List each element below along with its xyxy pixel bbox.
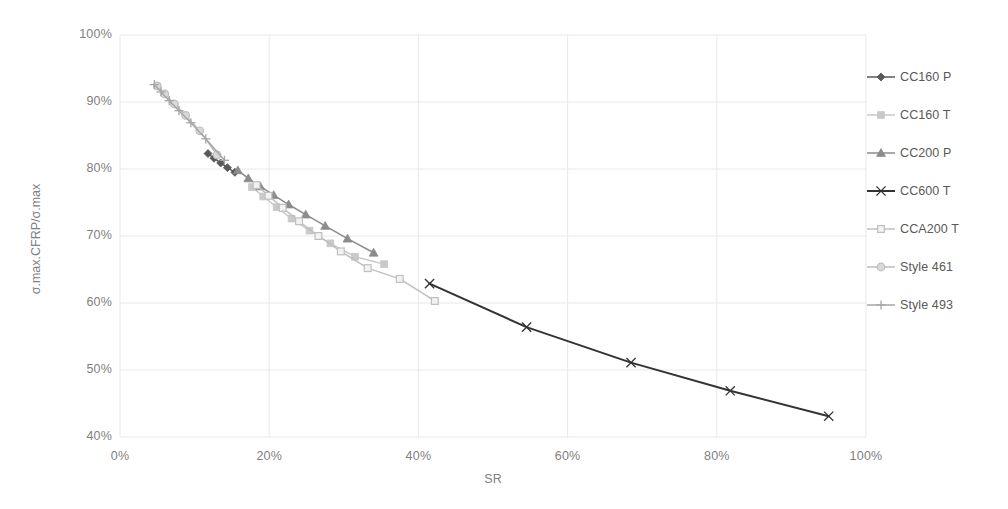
data-point bbox=[296, 218, 303, 225]
data-point bbox=[396, 275, 403, 282]
legend-marker-square-icon bbox=[866, 108, 896, 122]
legend-item-label: CC160 P bbox=[896, 70, 951, 84]
x-axis-tick-label: 40% bbox=[383, 449, 453, 463]
x-axis-tick-label: 80% bbox=[682, 449, 752, 463]
legend-marker-glyph bbox=[878, 112, 885, 119]
data-point bbox=[337, 248, 344, 255]
data-point bbox=[522, 323, 531, 332]
y-axis-tick-label: 80% bbox=[52, 161, 112, 175]
y-axis-title: σ.max.CFRP/σ.max bbox=[29, 154, 43, 324]
data-point bbox=[279, 204, 286, 211]
data-point bbox=[431, 298, 438, 305]
legend-item-cc160-t[interactable]: CC160 T bbox=[866, 96, 1008, 134]
legend-marker-plus-icon bbox=[866, 298, 896, 312]
data-point bbox=[321, 222, 330, 230]
legend-marker-square-open-icon bbox=[866, 222, 896, 236]
legend-item-label: CC200 P bbox=[896, 146, 951, 160]
legend-item-cc200-p[interactable]: CC200 P bbox=[866, 134, 1008, 172]
x-axis-tick-label: 20% bbox=[234, 449, 304, 463]
legend-item-label: Style 461 bbox=[896, 260, 953, 274]
legend-marker-triangle-icon bbox=[866, 146, 896, 160]
y-axis-tick-label: 100% bbox=[52, 27, 112, 41]
series-cc600-t bbox=[425, 279, 833, 421]
data-point bbox=[425, 279, 434, 288]
legend-marker-glyph bbox=[877, 263, 885, 271]
y-axis-tick-label: 60% bbox=[52, 295, 112, 309]
legend-marker-diamond-icon bbox=[866, 70, 896, 84]
y-axis-tick-label: 50% bbox=[52, 362, 112, 376]
y-axis-tick-label: 40% bbox=[52, 429, 112, 443]
legend-item-cc160-p[interactable]: CC160 P bbox=[866, 58, 1008, 96]
data-point bbox=[364, 265, 371, 272]
chart-container: 40%50%60%70%80%90%100%0%20%40%60%80%100%… bbox=[0, 0, 1008, 509]
legend-marker-glyph bbox=[878, 226, 885, 233]
legend-item-label: CC600 T bbox=[896, 184, 951, 198]
legend-item-style-461[interactable]: Style 461 bbox=[866, 248, 1008, 286]
x-axis-title: SR bbox=[458, 472, 528, 486]
series-cc160-p bbox=[204, 150, 239, 177]
y-axis-tick-label: 90% bbox=[52, 94, 112, 108]
data-point bbox=[369, 248, 378, 256]
series-cc200-p bbox=[233, 166, 378, 256]
data-point bbox=[301, 210, 310, 218]
x-axis-tick-label: 0% bbox=[85, 449, 155, 463]
series-style-493 bbox=[150, 80, 229, 165]
legend-item-cc600-t[interactable]: CC600 T bbox=[866, 172, 1008, 210]
y-axis-tick-label: 70% bbox=[52, 228, 112, 242]
legend-marker-glyph bbox=[876, 300, 885, 309]
x-axis-tick-label: 60% bbox=[533, 449, 603, 463]
data-point bbox=[381, 261, 388, 268]
legend-item-style-493[interactable]: Style 493 bbox=[866, 286, 1008, 324]
chart-legend: CC160 PCC160 TCC200 PCC600 TCCA200 TStyl… bbox=[866, 58, 1008, 324]
legend-marker-x-icon bbox=[866, 184, 896, 198]
series-line bbox=[257, 185, 435, 301]
data-point bbox=[315, 233, 322, 240]
gridlines bbox=[120, 35, 866, 437]
x-axis-tick-label: 100% bbox=[831, 449, 901, 463]
legend-marker-circle-icon bbox=[866, 260, 896, 274]
legend-item-cca200-t[interactable]: CCA200 T bbox=[866, 210, 1008, 248]
data-point bbox=[253, 182, 260, 189]
legend-item-label: CC160 T bbox=[896, 108, 951, 122]
data-point bbox=[265, 192, 272, 199]
legend-marker-glyph bbox=[877, 73, 885, 81]
data-point bbox=[343, 234, 352, 242]
legend-item-label: CCA200 T bbox=[896, 222, 959, 236]
legend-item-label: Style 493 bbox=[896, 298, 953, 312]
chart-plot-area bbox=[0, 0, 1008, 509]
